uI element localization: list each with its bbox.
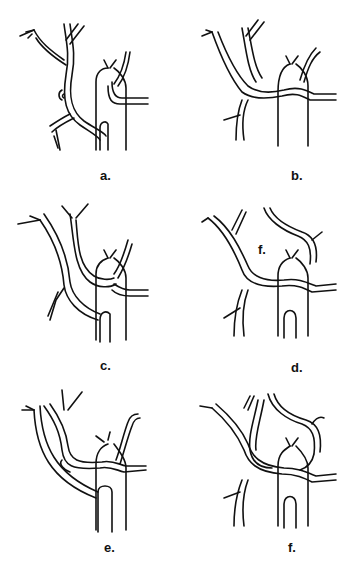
- panel-label-b: b.: [291, 168, 303, 183]
- vessel-diagram-b: [172, 0, 344, 190]
- vessel-diagram-e: [0, 380, 172, 563]
- vessel-diagram-f: [172, 380, 344, 563]
- vessel-diagram-d: [172, 190, 344, 380]
- panel-label-d: d.: [291, 360, 303, 375]
- panel-label-c: c.: [100, 358, 111, 373]
- panel-b: b.: [172, 0, 344, 190]
- panel-label-f: f.: [288, 540, 296, 555]
- panel-e: e.: [0, 380, 172, 563]
- vessel-diagram-c: [0, 190, 172, 380]
- panel-label-a: a.: [100, 168, 111, 183]
- panel-f: f.: [172, 380, 344, 563]
- vessel-diagram-a: [0, 0, 172, 190]
- panel-a: a.: [0, 0, 172, 190]
- panel-label-e: e.: [104, 540, 115, 555]
- panel-d: f. d.: [172, 190, 344, 380]
- panel-c: c.: [0, 190, 172, 380]
- inner-label-f: f.: [258, 242, 266, 257]
